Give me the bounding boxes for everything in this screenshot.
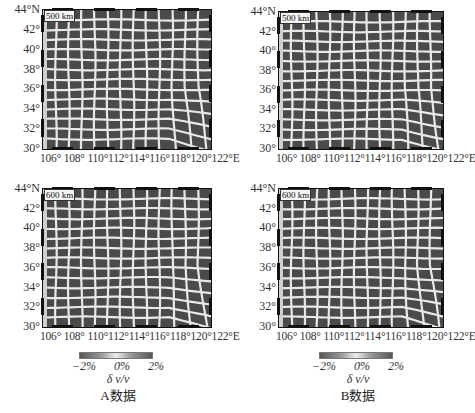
frame-tick-mark — [441, 194, 444, 211]
frame-tick-mark — [441, 263, 444, 280]
frame-tick-mark — [52, 325, 73, 328]
y-tick-label: 36° — [0, 261, 40, 273]
y-tick-label: 44°N — [236, 5, 276, 17]
frame-tick-mark — [136, 8, 157, 11]
y-tick-label: 38° — [0, 63, 40, 75]
y-tick-label: 36° — [0, 82, 40, 94]
y-tick-label: 32° — [0, 122, 40, 134]
y-tick-label: 44°N — [0, 182, 40, 194]
frame-tick-mark — [277, 120, 280, 137]
frame-tick-mark — [411, 147, 432, 150]
frame-tick-mark — [441, 17, 444, 34]
y-tick-label: 36° — [236, 261, 276, 273]
y-tick-label: 30° — [0, 320, 40, 332]
frame-tick-mark — [209, 194, 212, 211]
frame-tick-mark — [441, 51, 444, 68]
checkerboard-map: 600 km — [278, 188, 444, 328]
y-tick-label: 40° — [236, 221, 276, 233]
y-tick-label: 42° — [0, 202, 40, 214]
checkerboard-map: 500 km — [278, 11, 444, 150]
frame-tick-mark — [41, 229, 44, 246]
frame-tick-mark — [209, 85, 212, 102]
y-tick-label: 36° — [236, 83, 276, 95]
checkerboard-map: 500 km — [42, 9, 212, 150]
frame-tick-mark — [277, 263, 280, 280]
frame-tick-mark — [209, 50, 212, 67]
y-tick-label: 44°N — [0, 3, 40, 15]
frame-tick-mark — [411, 187, 432, 190]
frame-tick-mark — [41, 263, 44, 280]
frame-tick-mark — [370, 147, 391, 150]
y-tick-label: 40° — [236, 44, 276, 56]
frame-tick-mark — [277, 86, 280, 103]
frame-tick-mark — [209, 119, 212, 136]
y-tick-label: 38° — [236, 64, 276, 76]
frame-tick-mark — [370, 325, 391, 328]
depth-label: 600 km — [280, 189, 311, 201]
x-axis-labels: 106° 108° 110°112°114°116°118°120°122°E — [40, 152, 239, 164]
colorbar-b-title: B数据 — [312, 385, 404, 404]
depth-label: 600 km — [44, 189, 75, 201]
x-axis-labels: 106° 108° 110°112°114°116°118°120°122°E — [276, 330, 475, 342]
y-tick-label: 30° — [236, 320, 276, 332]
x-axis-labels: 106° 108° 110°112°114°116°118°120°122°E — [276, 152, 475, 164]
frame-tick-mark — [41, 119, 44, 136]
y-tick-label: 40° — [0, 221, 40, 233]
y-tick-label: 32° — [0, 300, 40, 312]
frame-tick-mark — [441, 298, 444, 315]
frame-tick-mark — [441, 86, 444, 103]
frame-tick-mark — [94, 325, 115, 328]
y-tick-label: 38° — [236, 241, 276, 253]
frame-tick-mark — [209, 298, 212, 315]
frame-tick-mark — [277, 298, 280, 315]
y-tick-label: 42° — [0, 23, 40, 35]
colorbar-a-title: A数据 — [72, 385, 164, 404]
y-tick-label: 30° — [236, 142, 276, 154]
frame-tick-mark — [178, 147, 199, 150]
frame-tick-mark — [52, 147, 73, 150]
frame-tick-mark — [329, 325, 350, 328]
frame-tick-mark — [288, 147, 309, 150]
frame-tick-mark — [178, 187, 199, 190]
frame-tick-mark — [370, 187, 391, 190]
y-tick-label: 42° — [236, 25, 276, 37]
y-tick-label: 34° — [236, 281, 276, 293]
colorbar-b-gradient — [319, 352, 393, 359]
frame-tick-mark — [94, 8, 115, 11]
y-tick-label: 32° — [236, 300, 276, 312]
y-tick-label: 34° — [0, 281, 40, 293]
checkerboard-map: 600 km — [42, 188, 212, 328]
depth-label: 500 km — [280, 12, 311, 24]
frame-tick-mark — [209, 263, 212, 280]
colorbar-a-gradient — [79, 352, 153, 359]
y-tick-label: 34° — [236, 103, 276, 115]
frame-tick-mark — [329, 147, 350, 150]
depth-label: 500 km — [44, 10, 75, 22]
frame-tick-mark — [178, 8, 199, 11]
frame-tick-mark — [41, 298, 44, 315]
frame-tick-mark — [288, 325, 309, 328]
frame-tick-mark — [94, 187, 115, 190]
y-tick-label: 32° — [236, 122, 276, 134]
frame-tick-mark — [329, 10, 350, 13]
frame-tick-mark — [178, 325, 199, 328]
frame-tick-mark — [209, 15, 212, 32]
frame-tick-mark — [277, 229, 280, 246]
y-tick-label: 34° — [0, 102, 40, 114]
frame-tick-mark — [136, 187, 157, 190]
frame-tick-mark — [411, 10, 432, 13]
y-tick-label: 38° — [0, 241, 40, 253]
x-axis-labels: 106° 108° 110°112°114°116°118°120°122°E — [40, 330, 239, 342]
frame-tick-mark — [329, 187, 350, 190]
frame-tick-mark — [41, 85, 44, 102]
frame-tick-mark — [136, 147, 157, 150]
frame-tick-mark — [277, 51, 280, 68]
y-tick-label: 42° — [236, 202, 276, 214]
frame-tick-mark — [441, 229, 444, 246]
frame-tick-mark — [370, 10, 391, 13]
frame-tick-mark — [136, 325, 157, 328]
frame-tick-mark — [209, 229, 212, 246]
y-tick-label: 40° — [0, 43, 40, 55]
frame-tick-mark — [441, 120, 444, 137]
y-tick-label: 44°N — [236, 182, 276, 194]
